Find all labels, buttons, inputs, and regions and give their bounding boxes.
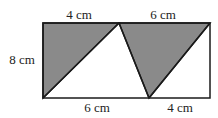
label-bottom-left: 6 cm xyxy=(84,100,110,115)
label-bottom-right: 4 cm xyxy=(167,100,193,115)
shaded-triangle-right xyxy=(119,23,210,98)
label-top-left: 4 cm xyxy=(66,7,92,22)
label-top-right: 6 cm xyxy=(150,7,176,22)
geometry-diagram: 4 cm 6 cm 8 cm 6 cm 4 cm xyxy=(0,0,218,118)
label-left-side: 8 cm xyxy=(9,52,35,67)
